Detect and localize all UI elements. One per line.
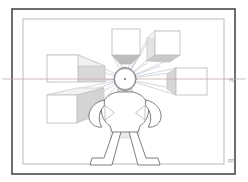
box-right (167, 68, 207, 95)
box-top-right (147, 31, 180, 62)
perspective-diagram-canvas: HL PP (0, 0, 248, 182)
perspective-drawing: HL PP (0, 0, 248, 182)
horizon-line-label: HL (229, 78, 235, 83)
vanishing-point-dot (124, 78, 126, 80)
box-top-center (112, 29, 140, 64)
picture-plane-label: PP (228, 159, 234, 164)
